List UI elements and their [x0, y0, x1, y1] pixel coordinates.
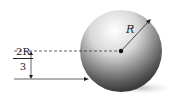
height-arrow-down — [29, 75, 33, 79]
height-fraction: 2R 3 — [13, 46, 33, 72]
center-point — [119, 49, 123, 53]
radius-label: R — [126, 23, 134, 36]
fraction-denominator: 3 — [13, 59, 33, 72]
fraction-numerator: 2R — [13, 46, 33, 59]
bottom-arrowhead — [84, 77, 89, 81]
